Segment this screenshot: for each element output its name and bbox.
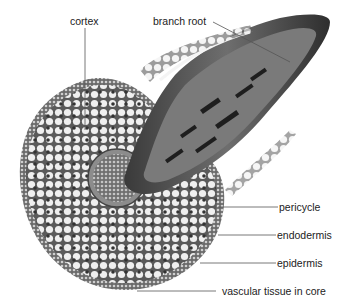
root-cross-section-diagram: cortex branch root pericycle endodermis … bbox=[0, 0, 345, 303]
cortex-label: cortex bbox=[70, 15, 99, 27]
branch-root-label: branch root bbox=[153, 15, 206, 27]
branch-root bbox=[124, 15, 330, 196]
epidermis-label: epidermis bbox=[277, 257, 323, 269]
vascular-tissue-label: vascular tissue in core bbox=[222, 285, 326, 297]
endodermis-label: endodermis bbox=[277, 229, 332, 241]
pericycle-label: pericycle bbox=[279, 201, 320, 213]
